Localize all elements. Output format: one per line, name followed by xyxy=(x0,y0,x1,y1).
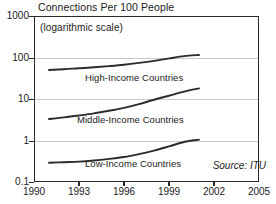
series-label-1: Middle-Income Countries xyxy=(77,114,184,125)
series-curve-high-income xyxy=(49,55,199,70)
source-note: Source: ITU xyxy=(213,160,266,171)
chart-figure: Connections Per 100 People (logarithmic … xyxy=(0,0,276,204)
series-label-0: High-Income Countries xyxy=(85,72,183,83)
series-curves-group xyxy=(0,0,276,204)
series-label-2: Low-Income Countries xyxy=(85,158,181,169)
